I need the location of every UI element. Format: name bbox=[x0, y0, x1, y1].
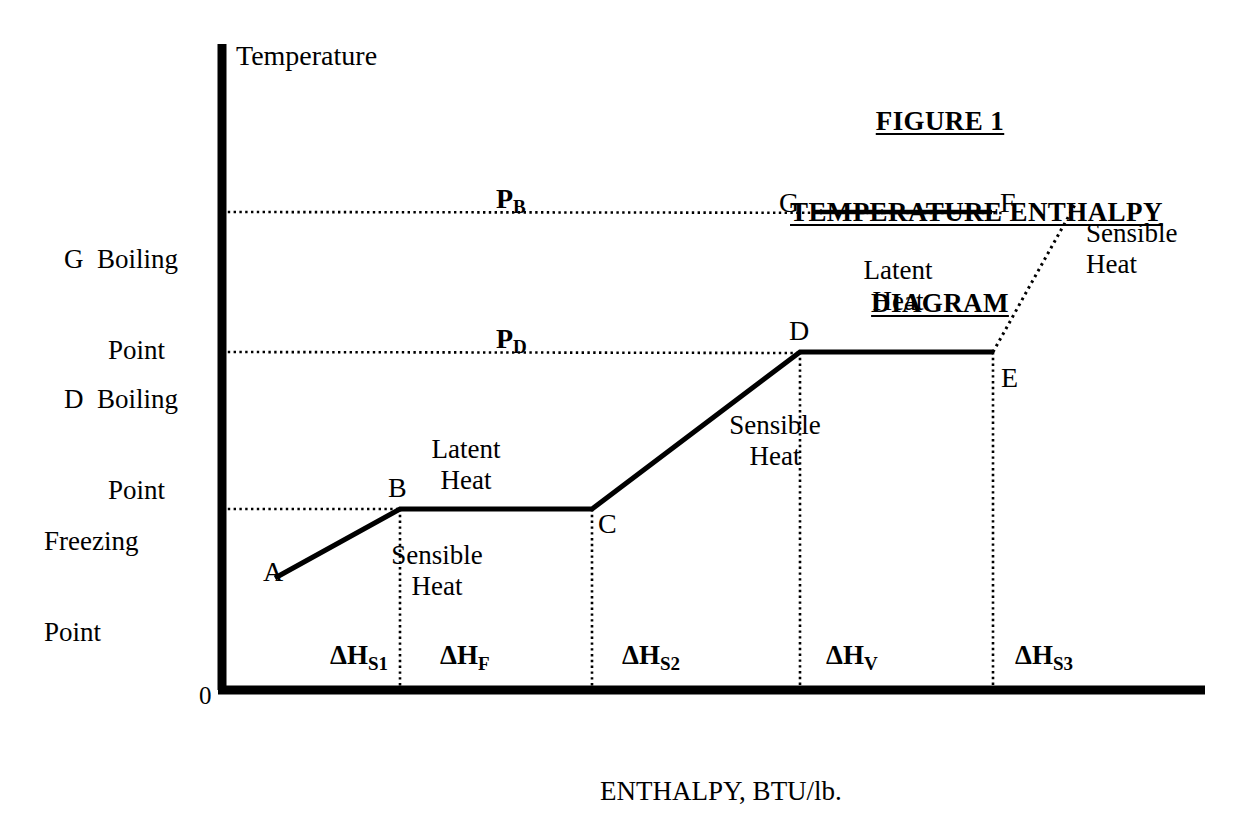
annotation-latent-heat-vaporization-line1: Latent bbox=[838, 255, 958, 286]
enthalpy-segment-label-s2-base: ΔH bbox=[622, 640, 660, 670]
pressure-label-pb-sub: B bbox=[513, 196, 526, 217]
point-label-f: F bbox=[1000, 187, 1016, 219]
x-axis-caption: ENTHALPY, BTU/lb. (Constant pressure) bbox=[521, 710, 921, 831]
enthalpy-segment-label-v: ΔHV bbox=[826, 640, 878, 671]
origin-label: 0 bbox=[199, 682, 212, 710]
pressure-label-pb-base: P bbox=[496, 183, 513, 214]
figure-title-line-2: TEMPERATURE ENTHALPY bbox=[790, 197, 1090, 227]
annotation-sensible-heat-vapour-line1: Sensible bbox=[1086, 218, 1226, 249]
enthalpy-segment-label-f-base: ΔH bbox=[440, 640, 478, 670]
pressure-label-pb: PB bbox=[496, 183, 526, 215]
figure-canvas: FIGURE 1 TEMPERATURE ENTHALPY DIAGRAM Te… bbox=[0, 0, 1242, 831]
axis-label-g-marker: G bbox=[64, 244, 84, 274]
annotation-latent-heat-fusion-line1: Latent bbox=[396, 434, 536, 465]
annotation-latent-heat-vaporization: Latent Heat bbox=[838, 255, 958, 317]
enthalpy-segment-label-v-base: ΔH bbox=[826, 640, 864, 670]
figure-title: FIGURE 1 TEMPERATURE ENTHALPY DIAGRAM bbox=[790, 46, 1090, 379]
annotation-latent-heat-vaporization-line2: Heat bbox=[838, 286, 958, 317]
annotation-sensible-heat-solid: Sensible Heat bbox=[362, 540, 512, 602]
axis-label-freezing-line2: Point bbox=[44, 617, 138, 647]
enthalpy-segment-label-s3-sub: S3 bbox=[1053, 653, 1073, 674]
enthalpy-segment-label-s1-base: ΔH bbox=[330, 640, 368, 670]
point-label-c: C bbox=[598, 508, 617, 540]
annotation-latent-heat-fusion-line2: Heat bbox=[396, 465, 536, 496]
point-label-g: G bbox=[779, 187, 799, 219]
pressure-label-pd-base: P bbox=[496, 323, 513, 354]
annotation-sensible-heat-liquid: Sensible Heat bbox=[700, 410, 850, 472]
enthalpy-segment-label-s1-sub: S1 bbox=[368, 653, 388, 674]
point-label-d: D bbox=[789, 315, 809, 347]
enthalpy-segment-label-s2: ΔHS2 bbox=[622, 640, 680, 671]
axis-label-freezing-point: Freezing Point bbox=[44, 466, 138, 708]
axis-label-freezing-line1: Freezing bbox=[44, 526, 138, 556]
enthalpy-segment-label-s1: ΔHS1 bbox=[330, 640, 388, 671]
pressure-label-pd: PD bbox=[496, 323, 527, 355]
axis-label-g-line1: Boiling bbox=[97, 244, 178, 274]
enthalpy-segment-label-s2-sub: S2 bbox=[660, 653, 680, 674]
enthalpy-segment-label-f-sub: F bbox=[478, 653, 490, 674]
annotation-sensible-heat-liquid-line1: Sensible bbox=[700, 410, 850, 441]
annotation-sensible-heat-liquid-line2: Heat bbox=[700, 441, 850, 472]
point-label-a: A bbox=[263, 556, 283, 588]
pressure-label-pd-sub: D bbox=[513, 336, 527, 357]
annotation-sensible-heat-solid-line1: Sensible bbox=[362, 540, 512, 571]
annotation-latent-heat-fusion: Latent Heat bbox=[396, 434, 536, 496]
y-axis-title: Temperature bbox=[236, 40, 377, 71]
annotation-sensible-heat-vapour-line2: Heat bbox=[1086, 249, 1226, 280]
enthalpy-segment-label-s3: ΔHS3 bbox=[1015, 640, 1073, 671]
x-axis-caption-line1: ENTHALPY, BTU/lb. bbox=[521, 775, 921, 807]
point-label-e: E bbox=[1001, 362, 1018, 394]
axis-label-d-line1: Boiling bbox=[97, 384, 178, 414]
annotation-sensible-heat-vapour: Sensible Heat bbox=[1086, 218, 1226, 280]
annotation-sensible-heat-solid-line2: Heat bbox=[362, 571, 512, 602]
enthalpy-segment-label-f: ΔHF bbox=[440, 640, 490, 671]
axis-label-d-marker: D bbox=[64, 384, 84, 414]
enthalpy-segment-label-v-sub: V bbox=[864, 653, 878, 674]
figure-title-line-1: FIGURE 1 bbox=[790, 106, 1090, 136]
enthalpy-segment-label-s3-base: ΔH bbox=[1015, 640, 1053, 670]
